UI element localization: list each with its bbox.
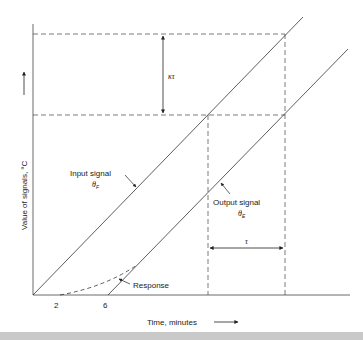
response-curve: [60, 265, 137, 295]
output-signal-label: Output signal: [213, 198, 260, 207]
output-signal-symbol: θE: [238, 209, 246, 219]
output-signal-pointer: [221, 183, 230, 194]
diagram-root: κτ τ Input signal θF Output signal θE Re…: [0, 0, 363, 340]
ramp-response-diagram: κτ τ Input signal θF Output signal θE Re…: [0, 0, 363, 332]
x-tick-2: 2: [54, 301, 59, 310]
input-signal-label: Input signal: [70, 169, 111, 178]
input-signal-line: [33, 17, 303, 295]
bottom-band: [0, 332, 363, 340]
kappa-tau-label: κτ: [168, 72, 176, 81]
output-signal-line: [108, 49, 348, 295]
tau-label: τ: [245, 237, 249, 246]
input-signal-pointer: [125, 175, 136, 187]
response-label: Response: [133, 281, 170, 290]
x-tick-6: 6: [103, 301, 108, 310]
y-axis-label: Value of signals, °C: [20, 160, 29, 230]
x-axis-label: Time, minutes: [147, 318, 197, 327]
input-signal-symbol: θF: [92, 180, 100, 190]
